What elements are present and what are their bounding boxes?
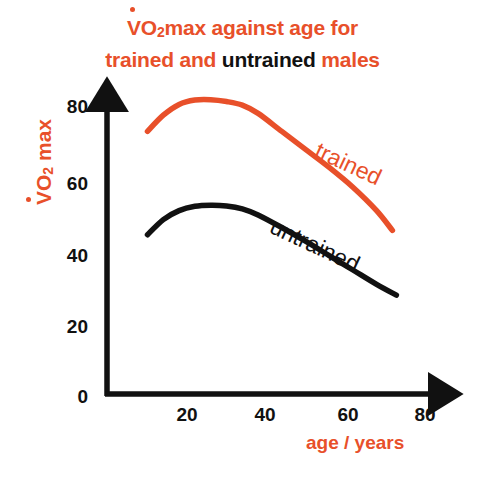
series-line-untrained bbox=[148, 205, 397, 295]
plot-area bbox=[0, 0, 485, 481]
chart-page: VO2max against age for trained and untra… bbox=[0, 0, 485, 481]
